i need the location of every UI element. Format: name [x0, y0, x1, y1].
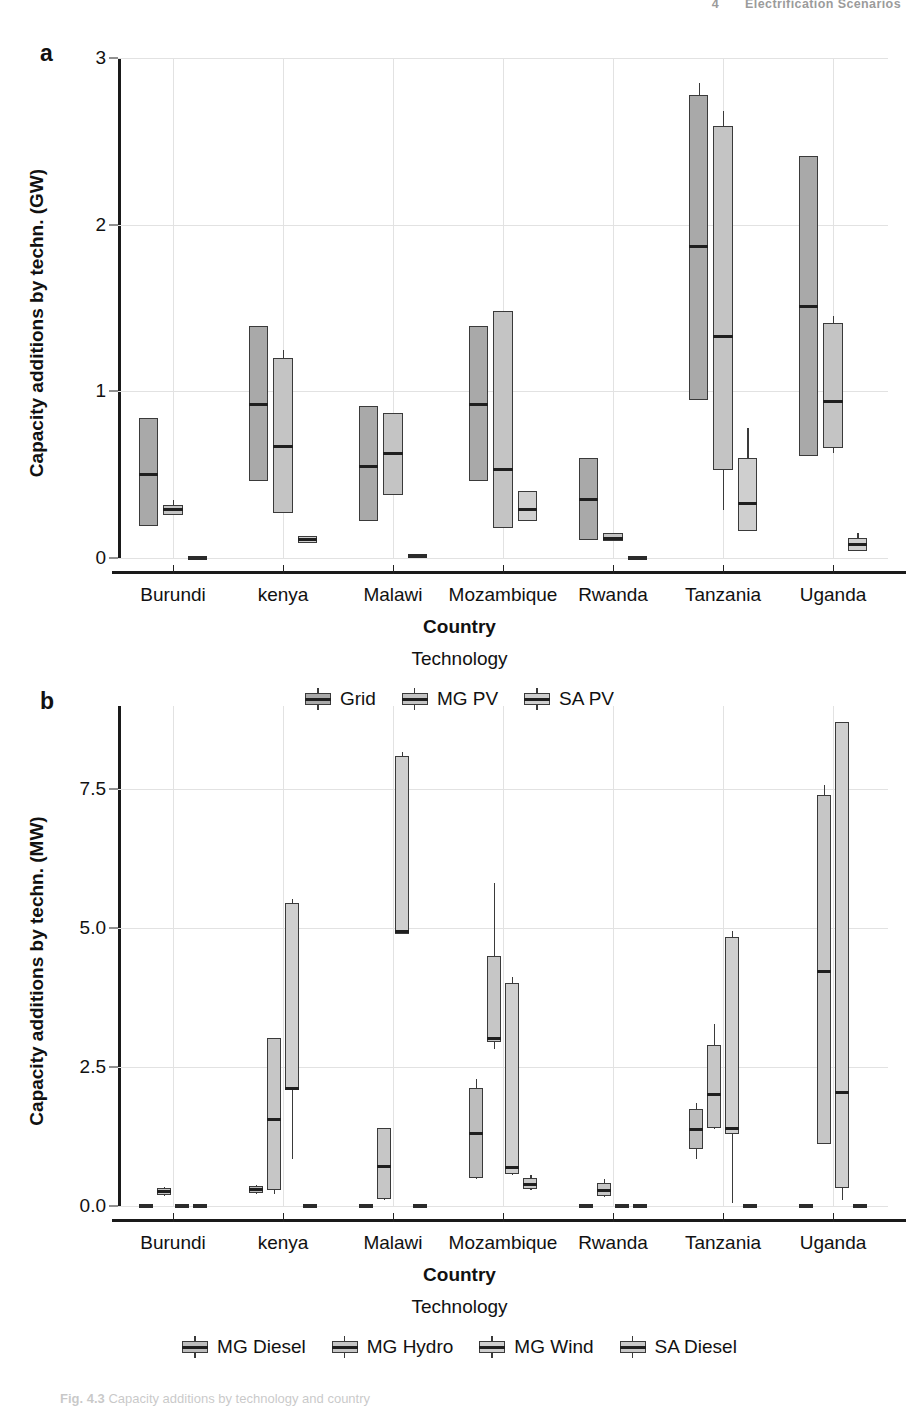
- boxplot-whisker-upper: [747, 428, 748, 458]
- boxplot-median: [579, 498, 598, 501]
- legend-swatch-icon: [332, 1337, 358, 1357]
- y-axis-tick-mark: [109, 224, 118, 225]
- x-axis-tick-mark: [393, 565, 394, 574]
- boxplot-median: [469, 403, 488, 406]
- boxplot-whisker-lower: [714, 1128, 715, 1129]
- boxplot-median: [163, 508, 182, 511]
- x-axis-tick-label: Burundi: [140, 584, 206, 606]
- legend-title-a: Technology: [0, 648, 919, 670]
- boxplot-box: [823, 323, 842, 448]
- boxplot-median: [523, 1183, 538, 1186]
- legend-title-b: Technology: [0, 1296, 919, 1318]
- boxplot-flat: [579, 1204, 594, 1208]
- legend-item[interactable]: MG Hydro: [332, 1336, 454, 1358]
- figure-caption-text: Capacity additions by technology and cou…: [108, 1391, 370, 1406]
- boxplot-median: [713, 335, 732, 338]
- boxplot-median: [157, 1190, 172, 1193]
- x-axis-tick-label: kenya: [258, 1232, 309, 1254]
- legend-swatch-icon: [479, 1337, 505, 1357]
- boxplot-box: [505, 983, 520, 1174]
- boxplot-median: [725, 1127, 740, 1130]
- boxplot-median: [505, 1166, 520, 1169]
- x-axis-tick-label: Rwanda: [578, 1232, 648, 1254]
- gridline-horizontal: [118, 1206, 888, 1207]
- figure-panel-b: b Capacity additions by techn. (MW) 0.02…: [0, 688, 919, 1368]
- x-axis-tick-label: Tanzania: [685, 584, 761, 606]
- y-axis-tick-mark: [109, 789, 118, 790]
- boxplot-median: [689, 1128, 704, 1131]
- legend-label: MG Diesel: [217, 1336, 306, 1358]
- legend-item[interactable]: MG Diesel: [182, 1336, 306, 1358]
- boxplot-median: [817, 970, 832, 973]
- x-axis-tick-label: Burundi: [140, 1232, 206, 1254]
- boxplot-flat: [303, 1204, 318, 1208]
- legend-item[interactable]: MG Wind: [479, 1336, 593, 1358]
- boxplot-flat: [175, 1204, 190, 1208]
- boxplot-box: [738, 458, 757, 531]
- y-axis-tick-mark: [109, 1206, 118, 1207]
- boxplot-whisker-upper: [833, 316, 834, 323]
- boxplot-flat: [193, 1204, 208, 1208]
- y-axis-label-a: Capacity additions by techn. (GW): [26, 58, 52, 588]
- y-axis-tick-mark: [109, 1067, 118, 1068]
- y-axis-label-b: Capacity additions by techn. (MW): [26, 706, 52, 1236]
- boxplot-box: [713, 126, 732, 469]
- x-axis-tick-mark: [833, 565, 834, 574]
- x-axis-tick-label: kenya: [258, 584, 309, 606]
- running-head-title: Electrification Scenarios: [745, 0, 901, 11]
- plot-area-a: 0123BurundikenyaMalawiMozambiqueRwandaTa…: [118, 58, 888, 558]
- x-axis-tick-mark: [393, 1213, 394, 1222]
- boxplot-flat: [628, 556, 647, 560]
- x-axis-tick-mark: [283, 565, 284, 574]
- boxplot-whisker-lower: [256, 1193, 257, 1194]
- legend-item[interactable]: SA Diesel: [620, 1336, 737, 1358]
- gridline-vertical: [613, 706, 614, 1206]
- figure-caption: Fig. 4.3 Capacity additions by technolog…: [60, 1391, 700, 1406]
- boxplot-median: [848, 543, 867, 546]
- x-axis-tick-mark: [613, 1213, 614, 1222]
- boxplot-median: [377, 1165, 392, 1168]
- x-axis-tick-label: Mozambique: [449, 1232, 558, 1254]
- boxplot-flat: [139, 1204, 154, 1208]
- boxplot-median: [249, 1188, 264, 1191]
- boxplot-flat: [799, 1204, 814, 1208]
- x-axis-tick-mark: [723, 565, 724, 574]
- boxplot-box: [395, 756, 410, 934]
- boxplot-whisker-lower: [274, 1190, 275, 1193]
- boxplot-median: [518, 508, 537, 511]
- boxplot-median: [267, 1118, 282, 1121]
- x-axis-tick-mark: [173, 565, 174, 574]
- boxplot-whisker-lower: [833, 448, 834, 453]
- boxplot-whisker-lower: [723, 470, 724, 510]
- x-axis-tick-mark: [723, 1213, 724, 1222]
- boxplot-median: [835, 1091, 850, 1094]
- x-axis-line: [112, 571, 906, 574]
- boxplot-whisker-lower: [732, 1134, 733, 1203]
- x-axis-tick-label: Uganda: [800, 1232, 867, 1254]
- x-axis-tick-label: Uganda: [800, 584, 867, 606]
- x-axis-tick-mark: [173, 1213, 174, 1222]
- boxplot-median: [738, 502, 757, 505]
- boxplot-median: [707, 1093, 722, 1096]
- x-axis-tick-label: Malawi: [363, 584, 422, 606]
- y-axis-tick-mark: [109, 558, 118, 559]
- boxplot-box: [725, 937, 740, 1134]
- boxplot-whisker-lower: [292, 1090, 293, 1158]
- page-number: 4: [712, 0, 719, 11]
- boxplot-flat: [743, 1204, 758, 1208]
- boxplot-median: [493, 468, 512, 471]
- boxplot-median: [139, 473, 158, 476]
- boxplot-whisker-lower: [494, 1042, 495, 1049]
- x-axis-tick-mark: [833, 1213, 834, 1222]
- boxplot-whisker-lower: [530, 1189, 531, 1190]
- boxplot-whisker-lower: [512, 1174, 513, 1176]
- y-axis-tick-mark: [109, 928, 118, 929]
- boxplot-median: [249, 403, 268, 406]
- x-axis-title-a: Country: [0, 616, 919, 638]
- boxplot-flat: [615, 1204, 630, 1208]
- legend-b: MG DieselMG HydroMG WindSA Diesel: [0, 1336, 919, 1358]
- running-head: 4Electrification Scenarios: [0, 0, 919, 13]
- y-axis-tick-mark: [109, 391, 118, 392]
- boxplot-box: [493, 311, 512, 528]
- boxplot-median: [597, 1189, 612, 1192]
